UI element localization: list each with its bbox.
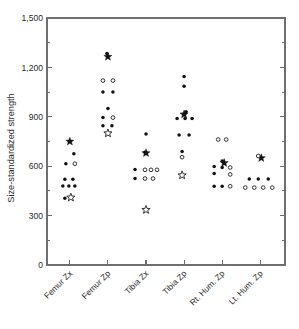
point-filled-circle xyxy=(101,116,105,120)
data-group-lt-hum-zp xyxy=(243,154,274,190)
point-filled-circle xyxy=(101,90,105,94)
point-filled-circle xyxy=(71,178,75,182)
point-filled-circle xyxy=(220,166,224,170)
y-tick-label: 600 xyxy=(29,161,44,171)
point-filled-circle xyxy=(183,117,187,121)
point-open-circle xyxy=(73,162,77,166)
point-filled-circle xyxy=(101,124,105,128)
point-filled-circle xyxy=(267,177,271,181)
point-filled-circle xyxy=(177,133,181,137)
point-filled-circle xyxy=(144,132,148,136)
point-open-circle xyxy=(151,177,155,181)
y-tick-label: 900 xyxy=(29,112,44,122)
point-open-circle xyxy=(101,79,105,83)
point-open-circle xyxy=(224,138,228,142)
point-filled-circle xyxy=(110,124,114,128)
point-filled-circle xyxy=(212,172,216,176)
x-axis-ticks xyxy=(70,260,260,265)
point-filled-circle xyxy=(220,185,224,189)
data-group-femur-zp xyxy=(101,52,115,137)
point-filled-circle xyxy=(212,165,216,169)
point-filled-circle xyxy=(72,152,76,156)
point-filled-circle xyxy=(133,177,137,181)
point-filled-circle xyxy=(143,150,147,154)
point-filled-circle xyxy=(111,90,115,94)
point-open-star xyxy=(142,206,150,214)
point-open-circle xyxy=(261,186,265,190)
y-axis-ticks xyxy=(47,18,285,265)
x-tick-label: Lt. Hum. Zp xyxy=(227,268,265,306)
point-open-circle xyxy=(149,168,153,172)
point-open-circle xyxy=(216,138,220,142)
point-open-circle xyxy=(228,173,232,177)
point-filled-circle xyxy=(220,159,224,163)
point-filled-circle xyxy=(182,85,186,89)
y-tick-label: 1,200 xyxy=(21,63,43,73)
point-filled-circle xyxy=(187,133,191,137)
point-open-circle xyxy=(111,79,115,83)
data-points-layer xyxy=(61,52,274,214)
point-open-circle xyxy=(143,177,147,181)
scatter-plot-figure: 03006009001,2001,500 Femur ZxFemur ZpTib… xyxy=(0,0,299,329)
data-group-tibia-zp xyxy=(175,75,194,179)
point-filled-circle xyxy=(180,150,184,154)
point-filled-circle xyxy=(105,52,109,56)
x-tick-label: Femur Zp xyxy=(80,268,113,301)
point-open-star xyxy=(104,129,112,137)
point-open-star xyxy=(67,193,75,201)
point-filled-circle xyxy=(190,117,194,121)
y-tick-label: 300 xyxy=(29,211,44,221)
y-axis-label: Size-standardized strength xyxy=(6,93,16,202)
point-filled-star xyxy=(66,137,74,145)
point-open-circle xyxy=(243,186,247,190)
plot-frame xyxy=(47,18,285,265)
x-tick-label: Tibia Zx xyxy=(123,268,151,296)
point-filled-circle xyxy=(63,197,67,201)
point-open-circle xyxy=(256,154,260,158)
point-open-circle xyxy=(270,186,274,190)
y-tick-label: 1,500 xyxy=(21,13,43,23)
point-open-circle xyxy=(143,168,147,172)
point-open-circle xyxy=(111,116,115,120)
point-filled-circle xyxy=(133,168,137,172)
x-tick-label: Tibia Zp xyxy=(160,268,188,296)
point-open-circle xyxy=(228,166,232,170)
point-open-circle xyxy=(155,168,159,172)
point-open-circle xyxy=(180,155,184,159)
y-axis-tick-labels: 03006009001,2001,500 xyxy=(21,13,43,270)
y-tick-label: 0 xyxy=(38,260,43,270)
point-open-star xyxy=(178,171,186,179)
point-filled-circle xyxy=(184,110,188,114)
x-tick-label: Femur Zx xyxy=(42,268,75,301)
point-filled-circle xyxy=(63,178,67,182)
point-filled-circle xyxy=(61,184,65,188)
data-group-tibia-zx xyxy=(133,132,159,213)
point-open-circle xyxy=(252,186,256,190)
point-filled-circle xyxy=(175,117,179,121)
plot-canvas: 03006009001,2001,500 Femur ZxFemur ZpTib… xyxy=(0,0,299,329)
point-filled-circle xyxy=(257,177,261,181)
point-filled-circle xyxy=(182,75,186,79)
data-group-rt-hum-zp xyxy=(212,138,232,188)
x-axis-tick-labels: Femur ZxFemur ZpTibia ZxTibia ZpRt. Hum.… xyxy=(42,268,265,308)
x-tick-label: Rt. Hum. Zp xyxy=(188,268,227,307)
point-filled-circle xyxy=(212,185,216,189)
plot-border xyxy=(47,18,285,265)
point-filled-circle xyxy=(106,107,110,111)
point-filled-circle xyxy=(73,184,77,188)
point-filled-circle xyxy=(248,177,252,181)
point-filled-circle xyxy=(64,162,68,166)
point-filled-circle xyxy=(67,184,71,188)
point-open-circle xyxy=(228,184,232,188)
data-group-femur-zx xyxy=(61,137,77,201)
